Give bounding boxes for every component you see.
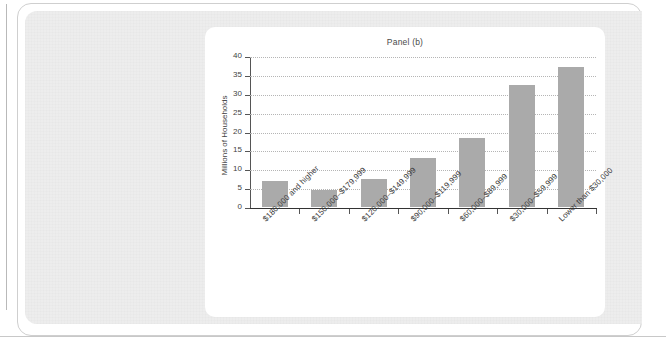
x-tick-mark <box>349 209 350 214</box>
y-tick-label-text: 25 <box>210 109 242 117</box>
y-tick-mark <box>245 95 250 96</box>
y-tick-label: 20 <box>210 128 242 136</box>
y-tick-label-text: 35 <box>210 71 242 79</box>
gridline <box>250 57 596 58</box>
y-tick-label-text: 30 <box>210 90 242 98</box>
y-tick-mark <box>245 151 250 152</box>
y-tick-label-text: 20 <box>210 128 242 136</box>
y-tick-label: 40 <box>210 52 242 60</box>
y-tick-label-text: 15 <box>210 146 242 154</box>
gridline <box>250 151 596 152</box>
page-left-rule <box>6 4 7 310</box>
screenshot-root: Panel (b) Millions of Households 0510152… <box>0 0 666 343</box>
x-tick-mark <box>299 209 300 214</box>
y-tick-label: 5 <box>210 184 242 192</box>
chart-card: Panel (b) Millions of Households 0510152… <box>205 27 605 317</box>
y-tick-label: 25 <box>210 109 242 117</box>
page-bottom-rule <box>0 336 666 337</box>
chart-title: Panel (b) <box>205 37 605 47</box>
x-tick-mark <box>448 209 449 214</box>
x-tick-mark <box>596 209 597 214</box>
y-tick-mark <box>245 189 250 190</box>
y-tick-label: 30 <box>210 90 242 98</box>
y-tick-label: 0 <box>210 203 242 211</box>
gridline <box>250 95 596 96</box>
y-tick-label: 15 <box>210 146 242 154</box>
x-tick-mark <box>398 209 399 214</box>
y-tick-label-text: 0 <box>210 203 242 211</box>
y-tick-label-text: 10 <box>210 165 242 173</box>
y-tick-label-text: 5 <box>210 184 242 192</box>
y-tick-mark <box>245 133 250 134</box>
y-tick-mark <box>245 208 250 209</box>
y-tick-mark <box>245 57 250 58</box>
x-tick-mark <box>547 209 548 214</box>
bar <box>558 67 584 207</box>
y-tick-mark <box>245 76 250 77</box>
gridline <box>250 133 596 134</box>
x-tick-mark <box>497 209 498 214</box>
y-tick-mark <box>245 114 250 115</box>
y-tick-label: 10 <box>210 165 242 173</box>
gridline <box>250 76 596 77</box>
bar <box>509 85 535 207</box>
y-tick-label: 35 <box>210 71 242 79</box>
y-tick-mark <box>245 170 250 171</box>
gridline <box>250 114 596 115</box>
y-tick-label-text: 40 <box>210 52 242 60</box>
